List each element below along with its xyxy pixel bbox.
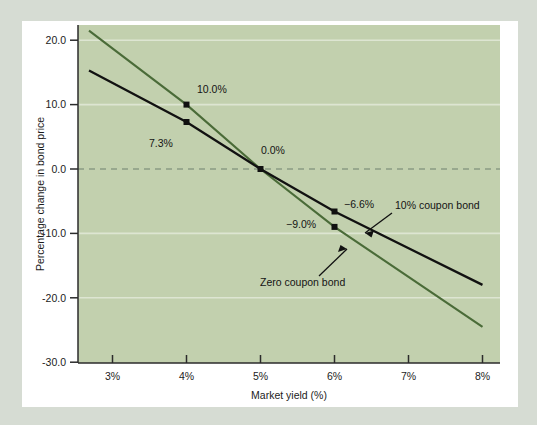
y-tick-label-20: 20.0 — [46, 34, 67, 46]
y-tick-label-0: 0.0 — [51, 163, 66, 175]
y-tick-label-10: 10.0 — [46, 98, 67, 110]
y-tick-label-neg30: -30.0 — [42, 356, 66, 368]
bond-price-sensitivity-chart: 20.0 10.0 0.0 -10.0 -20.0 -30.0 3% 4% 5%… — [22, 21, 518, 407]
marker-zero-coupon-4pct — [184, 102, 190, 108]
marker-zero-coupon-6pct — [332, 224, 338, 230]
series-label-10pct-coupon-bond: 10% coupon bond — [395, 199, 480, 211]
figure-root: 20.0 10.0 0.0 -10.0 -20.0 -30.0 3% 4% 5%… — [0, 0, 537, 425]
x-tick-label-7: 7% — [401, 370, 416, 382]
plot-area-background — [78, 25, 500, 363]
y-tick-label-neg20: -20.0 — [42, 292, 66, 304]
annotation-7-3-percent: 7.3% — [149, 137, 173, 149]
annotation-neg-9-0-percent: −9.0% — [286, 218, 316, 230]
x-tick-label-3: 3% — [105, 370, 120, 382]
x-tick-label-5: 5% — [253, 370, 268, 382]
x-tick-label-8: 8% — [475, 370, 490, 382]
marker-intersection-5pct — [258, 166, 264, 172]
y-axis — [70, 25, 78, 363]
annotation-neg-6-6-percent: −6.6% — [344, 198, 374, 210]
marker-10pct-coupon-6pct — [332, 209, 338, 215]
x-tick-label-4: 4% — [179, 370, 194, 382]
x-tick-label-6: 6% — [327, 370, 342, 382]
x-axis-title: Market yield (%) — [251, 389, 327, 401]
annotation-0-0-percent: 0.0% — [261, 144, 285, 156]
y-axis-title: Percentage change in bond price — [34, 117, 46, 271]
marker-10pct-coupon-4pct — [184, 119, 190, 125]
figure-card: 20.0 10.0 0.0 -10.0 -20.0 -30.0 3% 4% 5%… — [22, 21, 518, 407]
annotation-10-0-percent: 10.0% — [197, 83, 227, 95]
series-label-zero-coupon-bond: Zero coupon bond — [260, 276, 345, 288]
